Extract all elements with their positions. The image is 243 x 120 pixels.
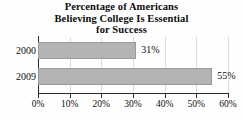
chart-title: Percentage of Americans Believing Colleg… <box>0 1 243 36</box>
bar-2000 <box>38 42 136 59</box>
tickmark-40 <box>165 94 166 98</box>
value-label-2000: 31% <box>141 45 159 55</box>
x-axis-tick-label-50: 50% <box>188 99 205 109</box>
chart-title-line-1: Percentage of Americans <box>0 1 243 13</box>
x-axis-tick-label-40: 40% <box>156 99 173 109</box>
y-axis-label-2009: 2009 <box>0 72 36 82</box>
bar-2009 <box>38 68 212 85</box>
chart-title-line-2: Believing College Is Essential <box>0 13 243 25</box>
tickmark-20 <box>101 94 102 98</box>
x-axis-tick-label-10: 10% <box>61 99 78 109</box>
plot-area: 31% 55% <box>38 37 228 93</box>
bar-chart: Percentage of Americans Believing Colleg… <box>0 0 243 120</box>
y-axis-label-2000: 2000 <box>0 46 36 56</box>
gridline-60 <box>228 37 229 93</box>
tickmark-60 <box>228 94 229 98</box>
tickmark-50 <box>196 94 197 98</box>
tickmark-30 <box>133 94 134 98</box>
x-axis-tick-label-60: 60% <box>219 99 236 109</box>
x-axis-tick-label-20: 20% <box>93 99 110 109</box>
value-label-2009: 55% <box>217 71 235 81</box>
y-axis-labels: 2000 2009 <box>0 37 36 93</box>
x-axis-tick-label-0: 0% <box>32 99 45 109</box>
tickmark-0 <box>38 94 39 98</box>
x-axis-tick-label-30: 30% <box>124 99 141 109</box>
chart-title-line-3: for Success <box>0 24 243 36</box>
tickmark-10 <box>70 94 71 98</box>
